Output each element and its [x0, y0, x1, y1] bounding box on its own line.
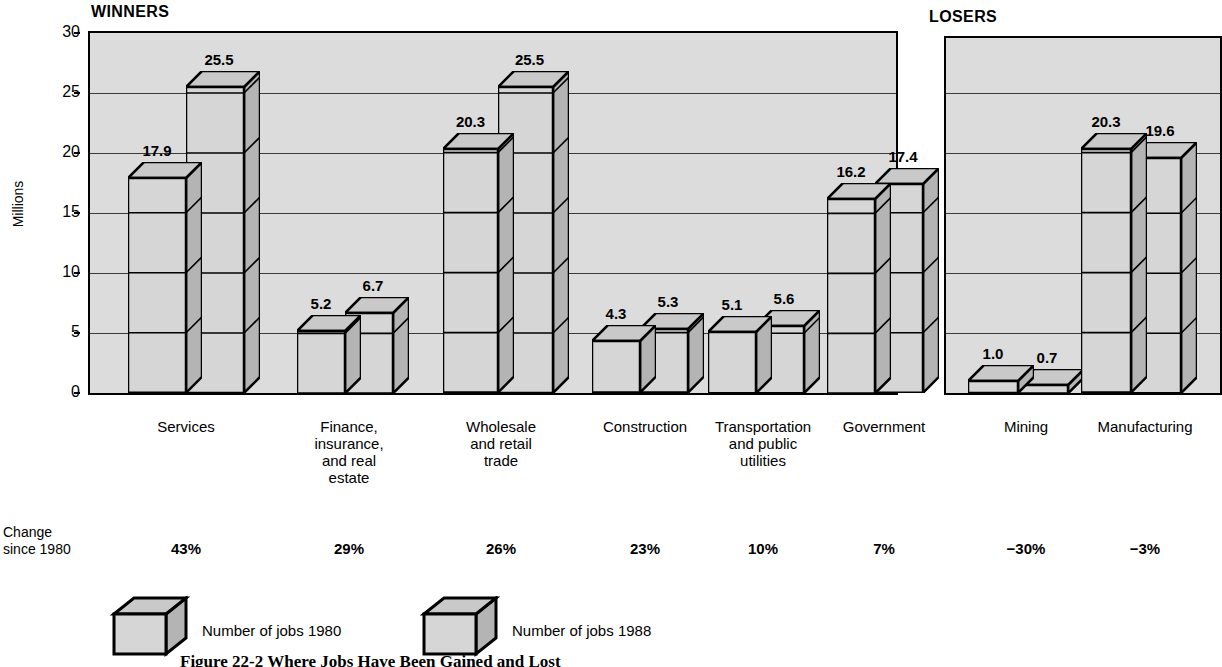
change-value-3: 23% — [585, 540, 705, 557]
change-value-2: 26% — [441, 540, 561, 557]
bar-3d-faces — [827, 183, 891, 393]
bar-4-1980 — [708, 316, 772, 393]
bar-value-label: 1.0 — [962, 345, 1024, 362]
bar-value-label: 5.3 — [638, 293, 698, 310]
losers-panel-title: LOSERS — [929, 8, 997, 26]
winners-panel-title: WINNERS — [91, 3, 169, 21]
legend-1988: Number of jobs 1988 — [420, 596, 750, 656]
bar-value-label: 5.2 — [291, 295, 351, 312]
bar-3d-faces — [297, 315, 361, 393]
change-value-7: −3% — [1085, 540, 1205, 557]
bar-value-label: 17.9 — [122, 142, 192, 159]
change-value-1: 29% — [289, 540, 409, 557]
y-tick-mark — [74, 332, 80, 334]
bar-3d-faces — [443, 133, 514, 393]
bar-7-1980 — [1081, 133, 1147, 393]
bar-0-1980 — [128, 162, 202, 393]
bar-3d-faces — [708, 316, 772, 393]
figure-caption: Figure 22-2 Where Jobs Have Been Gained … — [180, 652, 1080, 667]
change-value-5: 7% — [824, 540, 944, 557]
bar-value-label: 16.2 — [821, 163, 881, 180]
bar-3d-faces — [1081, 133, 1147, 393]
bar-value-label: 25.5 — [496, 51, 563, 68]
bar-value-label: 4.3 — [586, 305, 646, 322]
bar-3d-faces — [128, 162, 202, 393]
legend-label: Number of jobs 1988 — [512, 622, 651, 639]
change-value-6: −30% — [966, 540, 1086, 557]
category-label-0: Services — [91, 418, 281, 435]
y-axis-label: Millions — [10, 159, 26, 249]
legend-1980: Number of jobs 1980 — [110, 596, 440, 656]
bar-6-1980 — [968, 365, 1034, 393]
bar-value-label: 19.6 — [1129, 122, 1191, 139]
y-axis-ticks: 051015202530 — [28, 0, 80, 667]
y-tick-mark — [74, 212, 80, 214]
bar-2-1980 — [443, 133, 514, 393]
bar-value-label: 20.3 — [437, 113, 504, 130]
bar-value-label: 25.5 — [184, 51, 254, 68]
y-tick-mark — [74, 92, 80, 94]
figure-root: WINNERSLOSERSMillions05101520253017.925.… — [0, 0, 1222, 667]
y-tick-mark — [74, 152, 80, 154]
legend-label: Number of jobs 1980 — [202, 622, 341, 639]
category-label-7: Manufacturing — [1050, 418, 1222, 435]
bar-value-label: 20.3 — [1075, 113, 1137, 130]
bar-value-label: 5.6 — [754, 290, 814, 307]
legend-cube-icon — [110, 596, 196, 658]
change-value-0: 43% — [126, 540, 246, 557]
y-tick-mark — [74, 32, 80, 34]
gridline — [946, 93, 1220, 94]
y-tick-mark — [74, 392, 80, 394]
bar-3d-faces — [592, 325, 656, 393]
y-tick-mark — [74, 272, 80, 274]
change-value-4: 10% — [703, 540, 823, 557]
bar-3-1980 — [592, 325, 656, 393]
bar-5-1980 — [827, 183, 891, 393]
legend-cube-icon — [420, 596, 506, 658]
bar-3d-faces — [968, 365, 1034, 393]
bar-value-label: 5.1 — [702, 296, 762, 313]
bar-value-label: 0.7 — [1016, 349, 1078, 366]
bar-1-1980 — [297, 315, 361, 393]
bar-value-label: 17.4 — [873, 148, 933, 165]
bar-value-label: 6.7 — [343, 277, 403, 294]
change-since-1980-label: Change since 1980 — [3, 524, 71, 558]
